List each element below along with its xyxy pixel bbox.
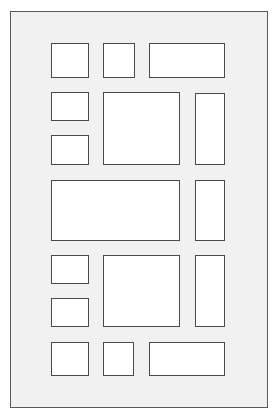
box-r4-left-top bbox=[51, 255, 89, 284]
box-r3-right bbox=[195, 180, 225, 241]
box-r3-wide bbox=[51, 180, 180, 241]
box-r5-c3 bbox=[149, 342, 225, 376]
box-r2-right bbox=[195, 93, 225, 165]
diagram-canvas bbox=[0, 0, 277, 415]
box-r4-center bbox=[103, 255, 180, 327]
box-r1-c3 bbox=[149, 43, 225, 78]
box-r4-left-bottom bbox=[51, 298, 89, 327]
box-r5-c2 bbox=[103, 342, 134, 376]
box-r4-right bbox=[195, 255, 225, 327]
box-r1-c2 bbox=[103, 43, 135, 78]
box-r5-c1 bbox=[51, 342, 89, 376]
box-r1-c1 bbox=[51, 43, 89, 78]
box-r2-left-top bbox=[51, 92, 89, 121]
box-r2-center bbox=[103, 92, 180, 165]
box-r2-left-bottom bbox=[51, 135, 89, 165]
